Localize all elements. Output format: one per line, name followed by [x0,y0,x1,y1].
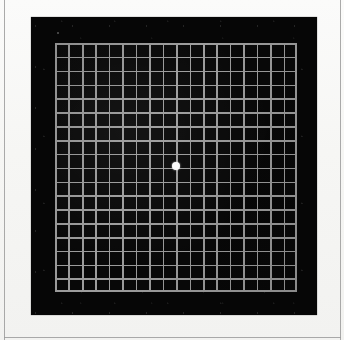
page-margin-rule-bottom [4,337,341,338]
grid-edge-bottom [55,290,297,292]
central-fixation-dot [172,162,180,170]
page-margin-rule-left [4,0,5,340]
scanned-page [0,0,344,340]
page-margin-rule-right [340,0,341,340]
amsler-black-surround [31,17,317,315]
amsler-grid [55,43,297,292]
grid-edge-right [295,43,297,292]
scan-speck [57,32,59,34]
